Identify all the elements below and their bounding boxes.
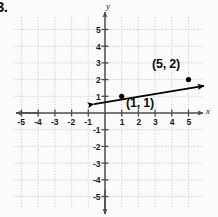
point-label-5-2: (5, 2) (152, 58, 180, 71)
data-point-1-1 (119, 94, 124, 99)
y-axis-name-label: y (106, 2, 110, 11)
x-tick-label-4: 4 (170, 118, 175, 127)
y-tick-label--3: -3 (93, 160, 101, 169)
y-tick-label--2: -2 (93, 143, 101, 152)
x-tick-label--4: -4 (34, 118, 42, 127)
y-tick-label-3: 3 (96, 59, 101, 68)
point-label-1-1: (1, 1) (126, 97, 154, 110)
graph-svg (0, 0, 218, 217)
y-tick-label-4: 4 (96, 43, 101, 52)
x-tick-label--1: -1 (84, 118, 92, 127)
x-tick-label--2: -2 (68, 118, 76, 127)
data-point-5-2 (186, 77, 191, 82)
y-tick-label--5: -5 (93, 193, 101, 202)
x-tick-label--3: -3 (51, 118, 59, 127)
x-tick-label-2: 2 (136, 118, 141, 127)
y-tick-label-5: 5 (96, 26, 101, 35)
y-tick-label--1: -1 (93, 126, 101, 135)
x-tick-label-3: 3 (153, 118, 158, 127)
x-tick-label-1: 1 (120, 118, 125, 127)
graph-screenshot: 3. (0, 0, 218, 217)
x-tick-label--5: -5 (18, 118, 26, 127)
x-axis-name-label: x (206, 107, 210, 116)
y-tick-label-2: 2 (96, 76, 101, 85)
y-tick-label--4: -4 (93, 176, 101, 185)
x-tick-label-5: 5 (187, 118, 192, 127)
y-tick-label-1: 1 (96, 93, 101, 102)
coordinate-plane-graph: -5 -4 -3 -2 -1 1 2 3 4 5 5 4 3 2 1 -1 -2… (0, 0, 218, 217)
problem-number-label: 3. (0, 0, 8, 15)
